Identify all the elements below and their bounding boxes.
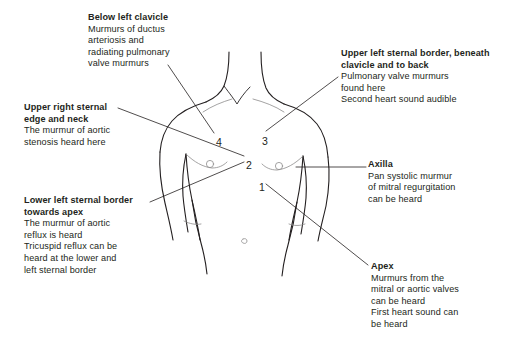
callout-body: Pulmonary valve murmurs found here Secon… xyxy=(341,71,512,106)
auscultation-marker-3: 3 xyxy=(262,135,268,147)
callout-body: Murmurs of ductus arteriosis and radiati… xyxy=(88,24,238,70)
leader-apex xyxy=(266,184,368,265)
callout-below-left-clavicle: Below left clavicle Murmurs of ductus ar… xyxy=(88,12,238,70)
auscultation-marker-2: 2 xyxy=(246,159,252,171)
leader-below-left-clavicle xyxy=(168,65,214,133)
right-shoulder-contour xyxy=(284,104,328,157)
callout-upper-right-sternal: Upper right sternal edge and neck The mu… xyxy=(24,102,172,148)
callout-body: The murmur of aortic stenosis heard here xyxy=(24,125,172,148)
leader-upper-left-sternal xyxy=(266,77,338,131)
callout-axilla: Axilla Pan systolic murmur of mitral reg… xyxy=(368,159,510,205)
right-arm-outer xyxy=(318,157,329,241)
callout-body: The murmur of aortic reflux is heard Tri… xyxy=(24,218,176,276)
left-flank-contour xyxy=(192,200,207,274)
sternal-notch xyxy=(224,86,250,104)
auscultation-marker-4: 4 xyxy=(216,136,222,148)
right-nipple xyxy=(275,162,282,169)
navel xyxy=(242,239,248,244)
callout-upper-left-sternal: Upper left sternal border, beneath clavi… xyxy=(341,48,512,106)
neck-right-contour xyxy=(261,52,284,104)
left-torso-side xyxy=(186,154,200,240)
left-nipple xyxy=(206,160,213,167)
cardiac-auscultation-diagram: Below left clavicle Murmurs of ductus ar… xyxy=(0,0,512,345)
callout-apex: Apex Murmurs from the mitral or aortic v… xyxy=(371,261,512,331)
callout-body: Pan systolic murmur of mitral regurgitat… xyxy=(368,171,510,206)
auscultation-marker-1: 1 xyxy=(259,181,265,193)
callout-lower-left-sternal: Lower left sternal border towards apex T… xyxy=(24,195,176,276)
callout-body: Murmurs from the mitral or aortic valves… xyxy=(371,273,512,331)
right-torso-side xyxy=(289,156,303,240)
callout-title: Upper right sternal edge and neck xyxy=(24,102,172,125)
callout-title: Upper left sternal border, beneath clavi… xyxy=(341,48,512,71)
callout-title: Below left clavicle xyxy=(88,12,238,24)
right-clavicle xyxy=(253,99,284,112)
right-flank-contour xyxy=(282,202,297,276)
callout-title: Lower left sternal border towards apex xyxy=(24,195,176,218)
callout-title: Axilla xyxy=(368,159,510,171)
callout-title: Apex xyxy=(371,261,512,273)
